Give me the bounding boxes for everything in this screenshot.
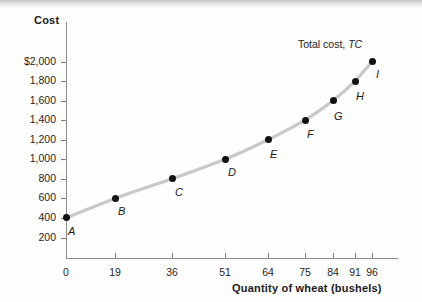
data-point-label-g: G — [334, 110, 343, 122]
data-point-label-d: D — [228, 166, 236, 178]
data-point-h — [352, 78, 359, 85]
data-point-label-i: I — [376, 68, 379, 80]
data-point-b — [112, 195, 119, 202]
data-point-e — [265, 136, 272, 143]
data-point-label-a: A — [68, 225, 75, 237]
data-point-label-e: E — [270, 148, 277, 160]
series-annotation-text: Total cost, — [298, 38, 345, 50]
data-point-a — [63, 214, 70, 221]
data-point-label-b: B — [118, 205, 125, 217]
data-point-d — [222, 156, 229, 163]
data-point-c — [169, 175, 176, 182]
data-point-f — [302, 117, 309, 124]
series-annotation-symbol: TC — [348, 38, 362, 50]
data-point-i — [369, 58, 376, 65]
x-axis-title: Quantity of wheat (bushels) — [232, 282, 382, 294]
series-annotation: Total cost, TC — [298, 38, 362, 50]
data-point-label-f: F — [307, 128, 314, 140]
data-point-label-c: C — [175, 186, 183, 198]
data-point-label-h: H — [356, 90, 364, 102]
data-point-g — [330, 97, 337, 104]
cost-curve-figure: Cost 2004006008001,0001,2001,4001,6001,8… — [0, 0, 422, 302]
